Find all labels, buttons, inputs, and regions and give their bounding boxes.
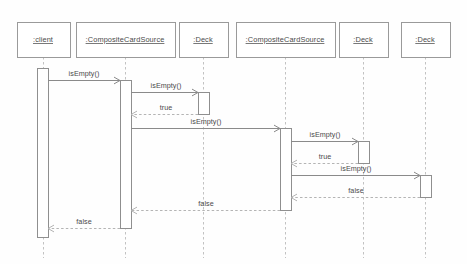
- message-m5-call: [291, 138, 358, 145]
- activation-bar-comp1: [121, 81, 132, 229]
- message-label-m2: isEmpty(): [151, 81, 182, 90]
- lifeline-label-deck1: :Deck: [193, 35, 213, 44]
- lifeline-header-deck2[interactable]: :Deck: [340, 23, 389, 58]
- activation-bar-deck3: [421, 176, 432, 198]
- sequence-diagram-svg: :client:CompositeCardSource:Deck:Composi…: [0, 0, 467, 264]
- message-m10-return: [48, 225, 120, 232]
- lifeline-header-layer: :client:CompositeCardSource:Deck:Composi…: [18, 23, 451, 58]
- lifeline-header-deck3[interactable]: :Deck: [402, 23, 451, 58]
- activation-bar-layer: [38, 69, 432, 238]
- message-m3-return: [131, 111, 198, 118]
- message-m9-return: [131, 207, 280, 214]
- lifeline-header-client[interactable]: :client: [18, 23, 71, 58]
- message-label-m6: true: [319, 152, 332, 161]
- activation-bar-comp2: [281, 129, 292, 211]
- message-m7-call: [291, 172, 420, 179]
- lifeline-label-deck2: :Deck: [353, 35, 373, 44]
- lifeline-label-comp1: :CompositeCardSource: [86, 35, 165, 44]
- message-label-m1: isEmpty(): [69, 69, 100, 78]
- sequence-diagram-canvas: :client:CompositeCardSource:Deck:Composi…: [0, 0, 467, 264]
- message-m2-call: [131, 89, 198, 96]
- message-label-m5: isEmpty(): [310, 130, 341, 139]
- message-label-m10: false: [76, 217, 91, 226]
- lifeline-label-deck3: :Deck: [415, 35, 435, 44]
- lifeline-label-comp2: :CompositeCardSource: [246, 35, 325, 44]
- message-m4-call: [131, 125, 280, 132]
- message-label-m9: false: [198, 199, 213, 208]
- activation-bar-client: [38, 69, 49, 238]
- message-label-m7: isEmpty(): [341, 164, 372, 173]
- message-label-m8: false: [348, 186, 363, 195]
- message-label-m3: true: [160, 103, 173, 112]
- lifeline-header-comp1[interactable]: :CompositeCardSource: [77, 23, 176, 58]
- lifeline-header-comp2[interactable]: :CompositeCardSource: [237, 23, 336, 58]
- lifeline-header-deck1[interactable]: :Deck: [180, 23, 229, 58]
- activation-bar-deck1: [199, 93, 210, 115]
- message-m1-call: [48, 77, 120, 84]
- message-m8-return: [291, 194, 420, 201]
- message-label-m4: isEmpty(): [191, 117, 222, 126]
- lifeline-label-client: :client: [33, 35, 53, 44]
- message-label-layer: isEmpty()isEmpty()trueisEmpty()isEmpty()…: [69, 69, 372, 226]
- activation-bar-deck2: [359, 142, 370, 164]
